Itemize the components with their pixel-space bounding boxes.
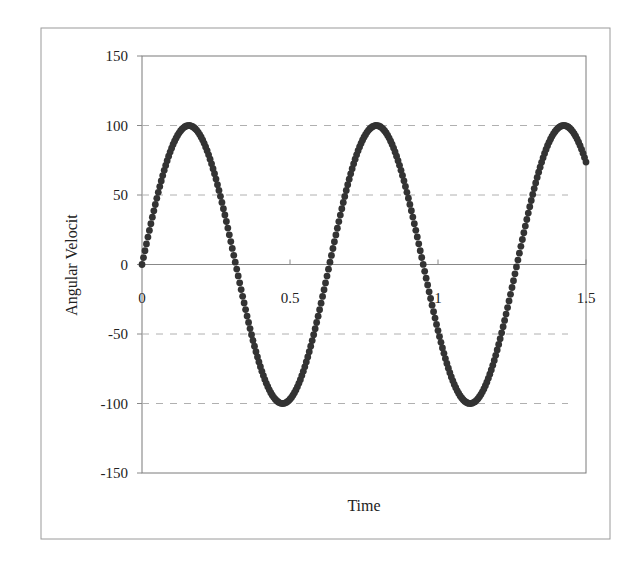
data-point: [432, 315, 439, 322]
data-point: [327, 259, 334, 266]
data-point: [241, 300, 248, 307]
data-point: [583, 159, 590, 166]
y-tick-label: -150: [101, 465, 129, 481]
data-point: [139, 261, 146, 268]
data-point: [435, 327, 442, 334]
data-point: [142, 247, 149, 254]
data-point: [526, 203, 533, 210]
data-point: [414, 234, 421, 241]
data-point: [242, 306, 249, 313]
data-point: [429, 302, 436, 309]
data-point: [244, 313, 251, 320]
data-point: [217, 193, 224, 200]
data-point: [525, 210, 532, 217]
data-point: [495, 341, 502, 348]
data-point: [516, 250, 523, 257]
data-point: [436, 333, 443, 340]
data-point: [501, 317, 508, 324]
data-point: [513, 264, 520, 271]
x-axis-title: Time: [347, 497, 380, 514]
data-point: [409, 214, 416, 221]
data-point: [219, 199, 226, 206]
data-point: [221, 212, 228, 219]
data-point: [313, 319, 320, 326]
data-point: [334, 225, 341, 232]
data-point: [236, 279, 243, 286]
data-point: [341, 193, 348, 200]
data-point: [235, 273, 242, 280]
data-point: [250, 337, 257, 344]
data-point: [324, 273, 331, 280]
data-point: [331, 238, 338, 245]
data-point: [147, 220, 154, 227]
data-point: [500, 323, 507, 330]
data-point: [214, 181, 221, 188]
data-point: [427, 295, 434, 302]
data-point: [216, 187, 223, 194]
y-tick-label: 50: [113, 187, 128, 203]
data-point: [220, 205, 227, 212]
data-point: [520, 229, 527, 236]
data-point: [412, 227, 419, 234]
data-point: [408, 207, 415, 214]
data-point: [531, 185, 538, 192]
data-point: [515, 257, 522, 264]
data-point: [152, 201, 159, 208]
data-point: [529, 191, 536, 198]
data-point: [340, 199, 347, 206]
data-point: [309, 337, 316, 344]
data-point: [497, 335, 504, 342]
data-point: [426, 288, 433, 295]
data-point: [509, 284, 516, 291]
data-point: [150, 207, 157, 214]
x-tick-label: 0: [138, 290, 146, 306]
y-tick-label: 150: [106, 48, 129, 64]
data-point: [343, 187, 350, 194]
data-point: [430, 308, 437, 315]
data-point: [510, 277, 517, 284]
data-point: [504, 304, 511, 311]
data-point: [498, 329, 505, 336]
data-point: [338, 205, 345, 212]
data-point: [424, 282, 431, 289]
data-point: [335, 218, 342, 225]
data-point: [522, 223, 529, 230]
x-tick-label: 1.5: [577, 290, 596, 306]
data-point: [418, 254, 425, 261]
data-point: [404, 189, 411, 196]
data-point: [405, 195, 412, 202]
data-point: [321, 286, 328, 293]
y-tick-label: 100: [106, 118, 129, 134]
data-point: [420, 261, 427, 268]
data-point: [415, 240, 422, 247]
data-point: [238, 286, 245, 293]
y-tick-label: -50: [108, 326, 128, 342]
data-point: [411, 220, 418, 227]
data-point: [226, 231, 233, 238]
data-point: [307, 343, 314, 350]
data-point: [143, 240, 150, 247]
data-point: [433, 321, 440, 328]
data-point: [330, 245, 337, 252]
data-point: [223, 218, 230, 225]
y-axis-title: Angular Velocit: [63, 214, 81, 316]
data-point: [315, 313, 322, 320]
data-point: [233, 266, 240, 273]
chart: 150100500-50-100-150 00.511.5 Angular Ve…: [0, 0, 640, 567]
data-point: [227, 238, 234, 245]
data-point: [417, 247, 424, 254]
data-point: [506, 298, 513, 305]
data-point: [512, 270, 519, 277]
data-point: [153, 195, 160, 202]
data-point: [519, 236, 526, 243]
data-point: [248, 331, 255, 338]
data-point: [423, 275, 430, 282]
data-point: [245, 319, 252, 326]
x-tick-label: 1: [434, 290, 442, 306]
data-point: [232, 259, 239, 266]
data-point: [316, 306, 323, 313]
data-point: [337, 212, 344, 219]
x-tick-label: 0.5: [281, 290, 300, 306]
data-point: [239, 293, 246, 300]
data-point: [517, 243, 524, 250]
